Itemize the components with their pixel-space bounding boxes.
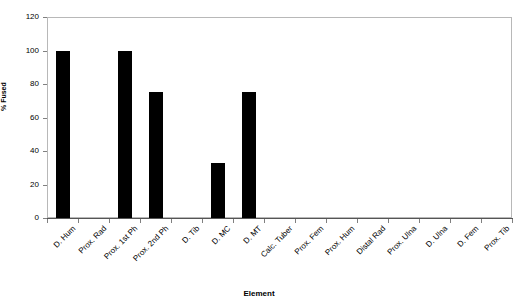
y-axis-tick-label: 80 (13, 80, 39, 88)
x-axis-tick (450, 219, 451, 223)
y-axis-tick-label: 60 (13, 114, 39, 122)
y-axis-tick-label: 40 (13, 147, 39, 155)
bar (242, 92, 256, 218)
x-axis-line (47, 218, 513, 219)
bar-series (47, 17, 512, 218)
x-axis-tick (481, 219, 482, 223)
y-axis-tick-label: 0 (13, 214, 39, 222)
x-axis-tick (357, 219, 358, 223)
y-axis-title: % Fused (0, 95, 7, 111)
x-axis-tick (140, 219, 141, 223)
bar (118, 51, 132, 219)
bar-chart: % Fused 020406080100120 D. HumProx. RadP… (0, 0, 518, 306)
x-axis-tick (512, 219, 513, 223)
y-axis-tick-label: 120 (13, 13, 39, 21)
x-axis-tick (202, 219, 203, 223)
x-axis-tick (171, 219, 172, 223)
x-axis-tick (295, 219, 296, 223)
y-axis-tick-label: 20 (13, 181, 39, 189)
bar (56, 51, 70, 219)
bar (211, 163, 225, 218)
x-axis-tick (233, 219, 234, 223)
y-axis-tick-label: 100 (13, 47, 39, 55)
x-axis-tick (78, 219, 79, 223)
x-axis-tick (109, 219, 110, 223)
x-axis-tick (419, 219, 420, 223)
x-axis-title: Element (0, 289, 518, 298)
x-axis-tick (264, 219, 265, 223)
x-axis-tick (326, 219, 327, 223)
x-axis-tick (47, 219, 48, 223)
x-axis-tick (388, 219, 389, 223)
bar (149, 92, 163, 218)
